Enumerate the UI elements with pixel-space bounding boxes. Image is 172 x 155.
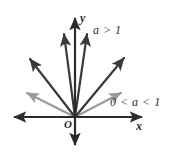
- annotation-a-greater-than-1: a > 1: [93, 24, 122, 36]
- ray-shallow-left-light: [27, 93, 75, 117]
- axes: [14, 18, 142, 145]
- y-axis-label: y: [80, 12, 85, 24]
- exponential-rays-figure: a > 1 0 < a < 1 x y O: [0, 0, 172, 155]
- origin-label: O: [64, 119, 72, 130]
- x-axis-label: x: [136, 120, 142, 132]
- annotation-a-between-0-and-1: 0 < a < 1: [110, 96, 161, 108]
- figure-canvas: [0, 0, 172, 155]
